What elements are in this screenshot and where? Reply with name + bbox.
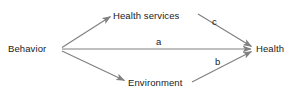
node-behavior: Behavior [8,43,46,54]
node-health-services: Health services [113,10,179,21]
path-diagram-canvas: Behavior Health services Environment Hea… [0,0,296,96]
edge-health-services-to-health [198,14,252,47]
edge-behavior-to-environment [62,51,125,81]
edge-label-b: b [215,57,220,67]
node-health: Health [256,43,284,54]
edge-label-c: c [212,17,217,27]
edge-environment-to-health [192,52,252,83]
edge-label-a: a [156,37,161,47]
node-environment: Environment [128,77,182,88]
edge-behavior-to-health-services [62,17,111,48]
